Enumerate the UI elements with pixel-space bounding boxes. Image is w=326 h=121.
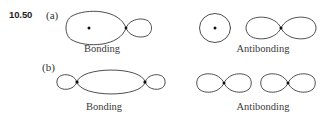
nucleus-dot [214,27,217,30]
orbital-b-antibonding-left-p-right-lobe [224,74,251,92]
orbital-a-bonding [66,11,152,44]
orbital-a-bonding-small-lobe [126,19,152,37]
nucleus-dot [223,82,226,85]
nucleus-dot [143,80,146,83]
nucleus-dot [75,80,78,83]
orbital-b-antibonding-right-p-left-lobe [261,74,288,92]
orbital-b-bonding-center-ellipse [77,70,145,94]
orbital-b-bonding-left-lobe [57,75,77,90]
orbital-b-bonding [57,70,165,94]
orbital-drawing-layer [0,0,326,121]
orbital-b-antibonding-right-p-right-lobe [288,74,315,92]
orbital-a-antibonding [200,14,317,43]
orbital-b-antibonding-left-p-left-lobe [197,74,224,92]
orbital-a-antibonding-p-right-lobe [281,17,316,39]
nucleus-dot [125,27,128,30]
orbital-b-antibonding [197,74,316,92]
nucleus-dot [88,27,91,30]
nucleus-dot [280,27,283,30]
orbital-b-bonding-right-lobe [145,75,165,90]
orbital-a-antibonding-p-left-lobe [246,17,281,39]
orbital-a-bonding-large-lobe [66,11,126,44]
orbital-figure: 10.50 (a) (b) Bonding Antibonding Bondin… [0,0,326,121]
nucleus-dot [287,82,290,85]
